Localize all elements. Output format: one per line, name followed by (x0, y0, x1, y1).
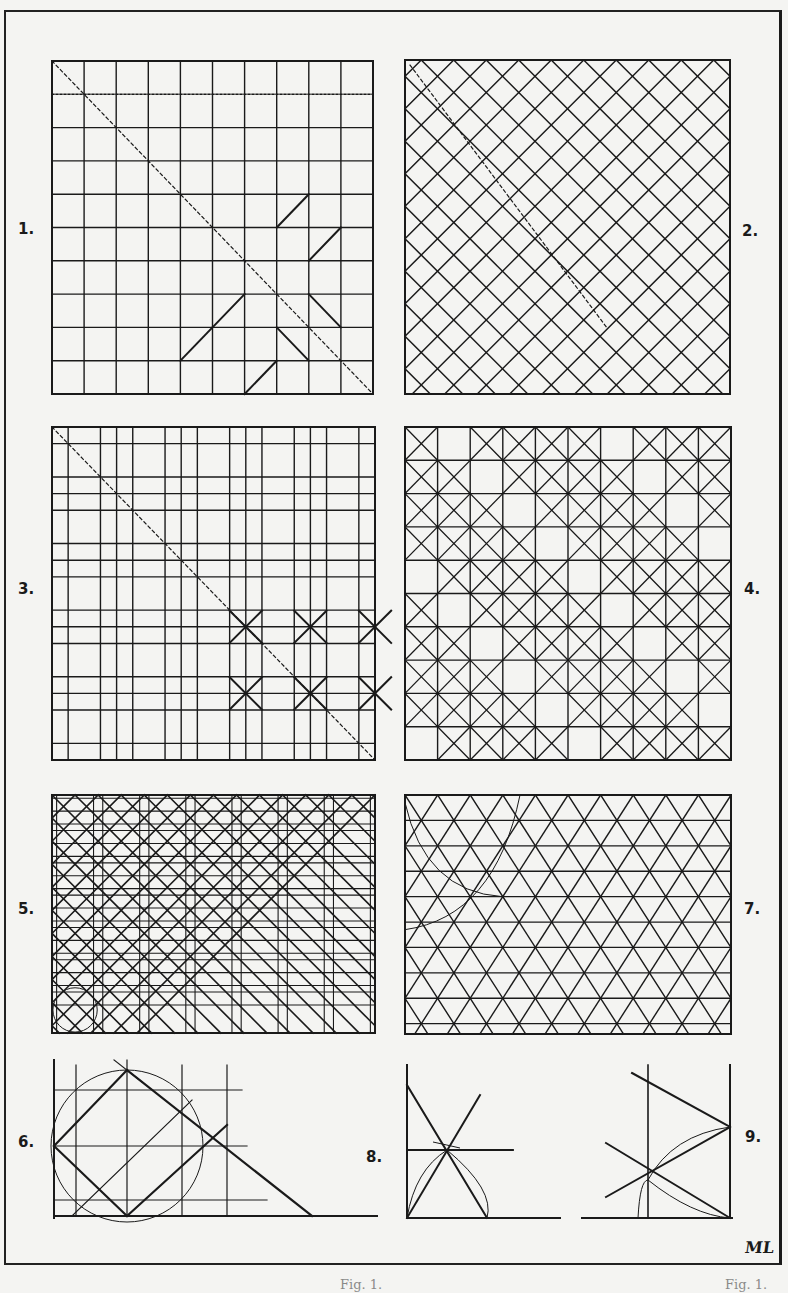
figure-5-label: 5. (18, 900, 34, 918)
figure-1-label: 1. (18, 220, 34, 238)
figure-8-star-construction (405, 1065, 573, 1220)
figure-2-diagonal-lattice (405, 60, 730, 394)
figure-9-label: 9. (745, 1128, 761, 1146)
figure-8-label: 8. (366, 1148, 382, 1166)
figure-4-crossed-squares-grid (405, 427, 731, 760)
figure-3-label: 3. (18, 580, 34, 598)
figure-5-octagon-lattice (52, 795, 375, 1033)
caption-fragment-right: Fig. 1. (725, 1277, 767, 1292)
figure-9-angle-construction (582, 1065, 732, 1220)
figure-7-label: 7. (744, 900, 760, 918)
figure-4-label: 4. (744, 580, 760, 598)
figure-2-label: 2. (742, 222, 758, 240)
figure-6-circle-square-construction (52, 1060, 377, 1218)
caption-fragment-left: Fig. 1. (340, 1277, 382, 1292)
figure-6-label: 6. (18, 1133, 34, 1151)
artist-monogram: ML (744, 1238, 776, 1257)
figure-1-square-grid (52, 61, 373, 394)
figure-7-triangular-lattice (405, 795, 731, 1034)
figure-3-paired-grid-octagons (52, 427, 375, 760)
